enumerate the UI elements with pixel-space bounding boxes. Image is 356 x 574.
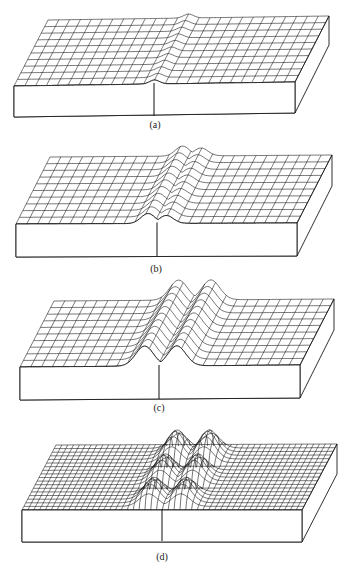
block-panel-c [20,280,334,400]
block-side-face [297,155,332,256]
panel-label-a: (a) [149,119,160,130]
surface-grid [14,14,329,86]
front-profile [20,346,300,400]
panel-label-b: (b) [150,263,162,274]
surface-grid [16,146,332,224]
block-panel-b [16,146,332,257]
block-panel-a [14,14,329,117]
rift-evolution-figure: (a) (b) (c) (d) [0,0,356,574]
panel-label-c: (c) [153,402,164,413]
block-panel-d [22,430,337,542]
block-diagrams [0,0,356,574]
surface-grid [22,430,337,510]
panel-label-d: (d) [156,551,168,562]
